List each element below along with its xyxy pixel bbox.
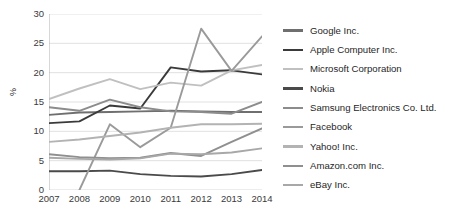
x-axis-tick: 2009 [95,194,125,204]
legend-item[interactable]: Amazon.com Inc. [283,156,459,175]
y-axis-tick: 10 [18,126,44,136]
x-axis-tick: 2011 [156,194,186,204]
series-line [49,170,262,176]
legend-swatch-icon [283,107,303,109]
legend-item-label: eBay Inc. [310,180,350,190]
legend-item[interactable]: Nokia [283,79,459,98]
legend-item[interactable]: Google Inc. [283,21,459,40]
legend-swatch-icon [283,165,303,167]
legend-swatch-icon [283,184,303,186]
x-axis-tick: 2013 [217,194,247,204]
legend-item-label: Facebook [310,122,352,132]
x-axis-tick: 2012 [186,194,216,204]
legend-item[interactable]: Facebook [283,117,459,136]
legend-swatch-icon [283,145,303,147]
y-axis-label: % [8,88,18,96]
legend-item[interactable]: eBay Inc. [283,175,459,194]
x-axis-tick: 2010 [125,194,155,204]
legend-item[interactable]: Yahoo! Inc. [283,137,459,156]
plot-area [49,14,262,190]
legend-item[interactable]: Apple Computer Inc. [283,40,459,59]
series-line [49,128,262,158]
legend-item-label: Google Inc. [310,26,359,36]
chart-legend: Google Inc.Apple Computer Inc.Microsoft … [283,21,459,195]
series-canvas [49,14,262,190]
y-axis-tick: 25 [18,38,44,48]
series-line [49,124,262,142]
legend-item[interactable]: Samsung Electronics Co. Ltd. [283,98,459,117]
legend-item-label: Microsoft Corporation [310,64,402,74]
legend-item-label: Samsung Electronics Co. Ltd. [310,103,436,113]
x-axis-tick: 2007 [34,194,64,204]
y-axis-tick: 30 [18,9,44,19]
line-chart: % 051015202530 2007200820092010201120122… [0,0,272,215]
chart-page: % 051015202530 2007200820092010201120122… [0,0,459,215]
legend-swatch-icon [283,126,303,128]
y-axis-tick: 5 [18,156,44,166]
legend-item[interactable]: Microsoft Corporation [283,60,459,79]
legend-item-label: Nokia [310,84,335,94]
x-axis-tick: 2014 [247,194,277,204]
legend-swatch-icon [283,87,303,89]
y-axis-tick: 20 [18,68,44,78]
legend-item-label: Yahoo! Inc. [310,142,358,152]
series-line [79,29,262,190]
legend-swatch-icon [283,29,303,31]
y-axis-tick: 15 [18,97,44,107]
legend-item-label: Apple Computer Inc. [310,45,397,55]
legend-swatch-icon [283,68,303,70]
legend-swatch-icon [283,49,303,51]
x-axis-tick: 2008 [64,194,94,204]
legend-item-label: Amazon.com Inc. [310,161,384,171]
series-line [49,67,262,123]
